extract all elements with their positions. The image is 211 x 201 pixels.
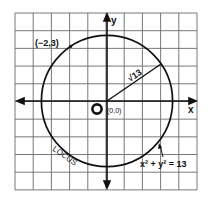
origin-coord-label: (0,0) <box>107 107 121 115</box>
y-axis-label: y <box>111 15 117 26</box>
point-label: (−2,3) <box>35 38 59 48</box>
circle-locus-diagram: y x (0,0) (−2,3) √13 LOCUS x² + y² = 13 <box>0 0 211 201</box>
equation-label: x² + y² = 13 <box>140 159 187 169</box>
x-axis-label: x <box>188 104 194 115</box>
point-marker <box>69 45 72 48</box>
